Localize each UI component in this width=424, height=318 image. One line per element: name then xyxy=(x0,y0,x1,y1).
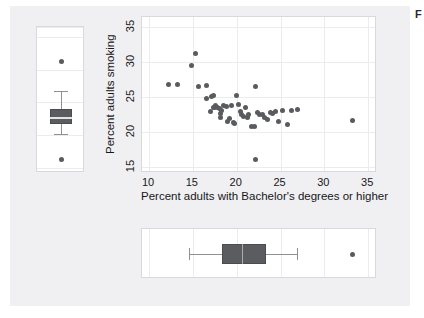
scatter-point xyxy=(253,157,258,162)
scatter-point xyxy=(273,109,278,114)
scatter-point xyxy=(280,108,285,113)
ybox-gridline-horizontal xyxy=(37,135,83,136)
scatter-gridline-horizontal xyxy=(142,132,375,133)
scatter-gridline-horizontal xyxy=(142,62,375,63)
scatter-point xyxy=(166,82,171,87)
scatter-point xyxy=(196,84,201,89)
scatter-point xyxy=(246,112,251,117)
y-axis-label: Percent adults smoking xyxy=(104,16,116,172)
x-marginal-boxplot-panel xyxy=(141,228,376,278)
scatter-point xyxy=(193,51,198,56)
scatter-point xyxy=(224,104,229,109)
scatter-point xyxy=(204,83,209,88)
scatter-point xyxy=(350,118,355,123)
ybox-whisker-cap xyxy=(54,91,68,92)
x-axis-tick-label: 10 xyxy=(142,176,154,188)
x-axis-tick-label: 25 xyxy=(273,176,285,188)
y-axis-tick-label: 35 xyxy=(124,20,136,32)
xbox-box xyxy=(222,244,266,264)
scatter-gridline-vertical xyxy=(149,17,150,171)
scatter-point xyxy=(218,115,223,120)
xbox-median-line xyxy=(242,244,244,264)
y-axis-tick-label: 15 xyxy=(124,160,136,172)
ybox-outlier-point xyxy=(59,157,64,162)
y-axis-tick-label: 25 xyxy=(124,90,136,102)
scatter-point xyxy=(265,117,270,122)
scatter-plot-panel xyxy=(141,16,376,172)
xbox-gridline-vertical xyxy=(324,229,325,277)
y-axis-tick-label: 20 xyxy=(124,125,136,137)
x-axis-tick-label: 20 xyxy=(230,176,242,188)
ybox-median-line xyxy=(50,117,72,119)
xbox-whisker-cap xyxy=(297,248,298,260)
scatter-point xyxy=(236,102,241,107)
x-axis-tick-label: 30 xyxy=(317,176,329,188)
scatter-point xyxy=(285,122,290,127)
scatter-point xyxy=(219,108,224,113)
x-axis-tick-label: 35 xyxy=(361,176,373,188)
scatter-point xyxy=(252,124,257,129)
scatter-point xyxy=(175,82,180,87)
x-axis-label: Percent adults with Bachelor's degrees o… xyxy=(141,190,376,202)
scatter-point xyxy=(229,103,234,108)
scatter-gridline-vertical xyxy=(281,17,282,171)
y-marginal-boxplot-panel xyxy=(36,26,84,172)
xbox-gridline-vertical xyxy=(149,229,150,277)
scatter-gridline-vertical xyxy=(368,17,369,171)
scatter-gridline-vertical xyxy=(324,17,325,171)
scatter-point xyxy=(295,107,300,112)
scatter-gridline-horizontal xyxy=(142,167,375,168)
scatter-point xyxy=(211,93,216,98)
xbox-gridline-vertical xyxy=(368,229,369,277)
scatter-point xyxy=(243,105,248,110)
ybox-whisker-cap xyxy=(54,134,68,135)
ybox-gridline xyxy=(37,27,83,28)
xbox-whisker-cap xyxy=(189,248,190,260)
x-axis-tick-label: 15 xyxy=(186,176,198,188)
y-axis-tick-label: 30 xyxy=(124,55,136,67)
scatter-point xyxy=(204,96,209,101)
ybox-gridline-horizontal xyxy=(37,37,83,38)
ybox-gridline-horizontal xyxy=(37,70,83,71)
clipped-corner-glyph: F xyxy=(415,8,422,20)
scatter-gridline-horizontal xyxy=(142,27,375,28)
xbox-outlier-point xyxy=(350,252,355,257)
ybox-gridline-horizontal xyxy=(37,168,83,169)
scatter-point xyxy=(253,84,258,89)
scatter-gridline-vertical xyxy=(193,17,194,171)
scatter-point xyxy=(289,108,294,113)
ybox-outlier-point xyxy=(59,59,64,64)
scatter-gridline-horizontal xyxy=(142,97,375,98)
